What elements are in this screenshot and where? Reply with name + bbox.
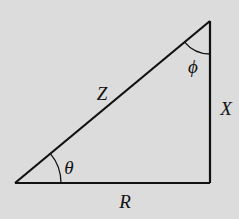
side-z-line: [15, 21, 210, 183]
hypotenuse-label-z: Z: [97, 84, 108, 103]
theta-angle-label: θ: [64, 158, 73, 177]
impedance-triangle-diagram: [0, 0, 239, 219]
vertical-side-label-x: X: [220, 99, 232, 118]
theta-angle-arc: [50, 154, 61, 183]
horizontal-side-label-r: R: [119, 192, 131, 211]
phi-angle-arc: [185, 42, 210, 54]
phi-angle-label: ϕ: [188, 57, 198, 76]
